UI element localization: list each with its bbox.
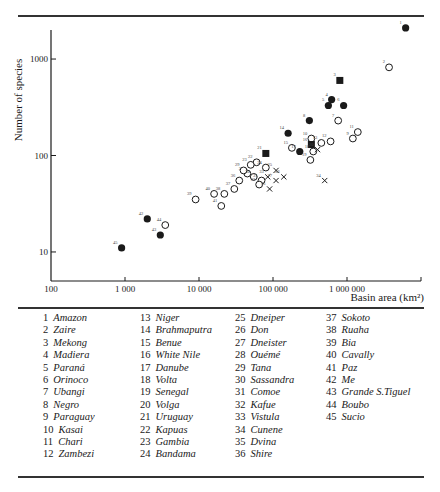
legend-item-river-name: Cunene xyxy=(251,424,283,435)
legend-item: 16White Nile xyxy=(140,349,212,361)
legend-item-river-name: Dvina xyxy=(251,436,277,447)
legend-item: 36Shire xyxy=(235,448,294,460)
data-point-cross: 35 xyxy=(261,181,272,192)
legend-item: 40Cavally xyxy=(326,349,410,361)
legend-item-river-name: Danube xyxy=(156,362,189,373)
legend-item-number: 33 xyxy=(235,411,246,423)
data-point-open-circle: 2 xyxy=(383,59,393,70)
legend-item-river-name: Paz xyxy=(342,362,358,373)
legend-item-river-name: Madiera xyxy=(53,349,89,360)
legend-column-1: 1Amazon2Zaire3Mekong4Madiera5Paraná6Orin… xyxy=(43,312,95,461)
legend-item-number: 5 xyxy=(43,362,48,374)
data-point-label: 45 xyxy=(113,240,118,245)
legend-item-river-name: Ruaha xyxy=(342,324,369,335)
data-point-label: 13 xyxy=(313,135,318,140)
x-axis-label: Basin area (km²) xyxy=(350,291,424,304)
legend-item-river-name: Cavally xyxy=(342,349,375,360)
data-point-label: 40 xyxy=(206,186,211,191)
data-point-filled-circle: 1 xyxy=(399,20,409,32)
data-point-label: 38 xyxy=(216,186,221,191)
data-point-label: 23 xyxy=(242,157,247,162)
legend-item: 21Uruguay xyxy=(140,411,212,423)
legend-item-river-name: Volta xyxy=(156,374,178,385)
legend-item: 8Negro xyxy=(43,399,95,411)
legend-item-number: 8 xyxy=(43,399,48,411)
legend-item: 33Vistula xyxy=(235,411,294,423)
legend-item-number: 27 xyxy=(235,337,246,349)
data-point-label: 17 xyxy=(291,144,296,149)
legend-item-river-name: Mekong xyxy=(53,337,87,348)
data-point-open-circle: 37 xyxy=(226,181,238,192)
legend-item: 23Gambia xyxy=(140,436,212,448)
legend-item-number: 37 xyxy=(326,312,337,324)
legend-item-number: 21 xyxy=(140,411,151,423)
legend-item: 11Chari xyxy=(43,436,95,448)
legend-item-river-name: Kasai xyxy=(59,424,84,435)
legend-item: 18Volta xyxy=(140,374,212,386)
legend-item-number: 38 xyxy=(326,324,337,336)
legend-item-number: 26 xyxy=(235,324,246,336)
legend-item-river-name: Comoe xyxy=(251,386,281,397)
legend-item: 19Senegal xyxy=(140,386,212,398)
legend-item-number: 44 xyxy=(326,399,337,411)
legend-item-river-name: Me xyxy=(342,374,355,385)
data-point-label: 30 xyxy=(245,169,250,174)
legend-item-number: 31 xyxy=(235,386,246,398)
legend-item-number: 11 xyxy=(43,436,53,448)
data-point-label: 37 xyxy=(226,181,231,186)
legend-item-number: 4 xyxy=(43,349,48,361)
data-point-label: 9 xyxy=(347,131,350,136)
legend-item-river-name: Bandama xyxy=(156,448,196,459)
legend-item-number: 24 xyxy=(140,448,151,460)
legend-column-2: 13Niger14Brahmaputra15Benue16White Nile1… xyxy=(140,312,212,461)
data-point-label: 34 xyxy=(316,173,321,178)
legend-item-number: 20 xyxy=(140,399,151,411)
data-point-label: 39 xyxy=(187,191,192,196)
legend-item-river-name: Grande S.Tiguel xyxy=(342,386,411,397)
legend-item-number: 30 xyxy=(235,374,246,386)
legend-item-river-name: Kapuas xyxy=(156,424,188,435)
legend-item-number: 7 xyxy=(43,386,48,398)
data-point-label: 43 xyxy=(152,227,157,232)
legend-item-river-name: Sassandra xyxy=(251,374,295,385)
legend-item: 7Ubangi xyxy=(43,386,95,398)
legend-item: 1Amazon xyxy=(43,312,95,324)
legend-item-number: 29 xyxy=(235,362,246,374)
data-point-label: 32 xyxy=(251,177,256,182)
data-point-label: 4 xyxy=(325,92,328,97)
data-point-label: 7 xyxy=(332,113,335,118)
legend-item: 17Danube xyxy=(140,362,212,374)
legend-item-number: 25 xyxy=(235,312,246,324)
legend-item-river-name: Sokoto xyxy=(342,312,371,323)
legend-item-river-name: Ouémé xyxy=(251,349,281,360)
legend-item: 28Ouémé xyxy=(235,349,294,361)
legend-item: 25Dneiper xyxy=(235,312,294,324)
data-point-filled-square: 21 xyxy=(257,145,269,157)
scatter-chart: 1001 00010 000100 0001 000 000101001000 … xyxy=(0,0,440,310)
axes: 1001 00010 000100 0001 000 000101001000 xyxy=(30,30,421,294)
data-point-cross: 34 xyxy=(316,173,327,184)
y-axis-label: Number of species xyxy=(12,59,24,141)
data-point-label: 24 xyxy=(257,160,262,165)
data-point-open-circle: 39 xyxy=(187,191,199,202)
data-point-filled-circle: 42 xyxy=(139,211,151,223)
legend-item-river-name: Zaire xyxy=(53,324,75,335)
legend-item: 6Orinoco xyxy=(43,374,95,386)
data-point-label: 8 xyxy=(303,113,306,118)
data-point-label: 20 xyxy=(309,142,314,147)
data-point-open-circle: 11 xyxy=(349,124,361,135)
data-point-filled-square: 3 xyxy=(334,72,344,84)
data-point-open-circle: 44 xyxy=(157,217,169,228)
legend-item-number: 14 xyxy=(140,324,151,336)
legend-item: 12Zambezi xyxy=(43,448,95,460)
legend-item-number: 10 xyxy=(43,424,54,436)
data-point-filled-circle: 14 xyxy=(280,125,292,137)
legend-item-river-name: White Nile xyxy=(156,349,201,360)
bottom-rule xyxy=(18,476,424,478)
legend-item-number: 28 xyxy=(235,349,246,361)
data-point-label: 11 xyxy=(349,124,353,129)
legend-item-river-name: Uruguay xyxy=(156,411,193,422)
legend-item-number: 45 xyxy=(326,411,337,423)
legend-item-number: 42 xyxy=(326,374,337,386)
legend-item: 26Don xyxy=(235,324,294,336)
